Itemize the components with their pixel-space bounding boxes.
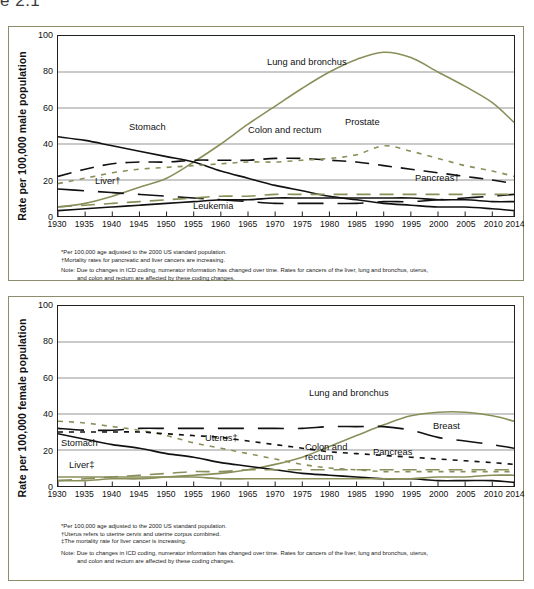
female-note-line-2: and colon and rectum are affected by the… [61,558,509,566]
x-tick-label: 1975 [293,489,312,499]
x-tick-label: 1940 [102,489,121,499]
female-footnote-3: ‡The mortality rate for liver cancer is … [61,538,513,546]
annotation-stomach: Stomach [61,438,98,448]
female-plot [57,305,515,487]
series-line-leukemia [58,198,514,211]
x-tick-label: 1995 [402,489,421,499]
male-footnote-1: *Per 100,000 age adjusted to the 2000 US… [61,249,513,257]
annotation-stomach: Stomach [129,122,166,132]
x-tick-label: 1985 [347,489,366,499]
x-tick-label: 2005 [456,219,475,229]
male-chart-area: Rate per 100,000 male population 0204060… [9,27,523,245]
x-tick-label: 1930 [47,489,66,499]
annotation-liver: Liver† [95,176,120,186]
x-tick-label: 1945 [129,489,148,499]
annotation-uterus: Uterus‡ [205,433,238,443]
y-tick-label: 20 [43,446,53,455]
female-footnote-2: †Uterus refers to uterine cervix and ute… [61,531,513,539]
y-tick-label: 60 [43,103,53,112]
x-tick-label: 1980 [320,219,339,229]
male-note: Note: Due to changes in ICD coding, nume… [61,267,509,282]
x-tick-label: 2010 [484,219,503,229]
x-tick-label: 1960 [211,489,230,499]
y-tick-label: 100 [38,31,53,40]
x-tick-label: 2014 [505,219,524,229]
x-tick-label: 1980 [320,489,339,499]
x-tick-label: 1950 [156,489,175,499]
x-tick-label: 1955 [184,489,203,499]
female-line-chart-svg [58,306,514,486]
annotation-lung-and-bronchus: Lung and bronchus [309,388,389,398]
annotation-breast: Breast [433,421,460,431]
female-y-tick-labels: 020406080100 [33,305,55,487]
y-tick-label: 60 [43,373,53,382]
male-note-line-2: and colon and rectum are affected by the… [61,275,509,283]
x-tick-label: 1935 [75,219,94,229]
x-tick-label: 1955 [184,219,203,229]
x-tick-label: 1945 [129,219,148,229]
annotation-colon-and-rectum-line2: rectum [305,452,333,462]
male-y-tick-labels: 020406080100 [33,35,55,217]
female-y-axis-title: Rate per 100,000 female population [11,297,33,519]
y-tick-label: 100 [38,301,53,310]
male-footnotes: *Per 100,000 age adjusted to the 2000 US… [61,249,513,264]
y-tick-label: 20 [43,176,53,185]
female-plot-wrapper: 020406080100 193019351940194519501955196… [33,305,515,519]
x-tick-label: 2014 [505,489,524,499]
annotation-pancreas: Pancreas [373,447,412,457]
x-tick-label: 1995 [402,219,421,229]
male-chart-panel: Rate per 100,000 male population 0204060… [8,26,524,281]
x-tick-label: 1970 [266,219,285,229]
x-tick-label: 2000 [429,219,448,229]
series-line-stomach [58,434,514,483]
series-line-colon-and-rectum [58,432,514,465]
y-tick-label: 40 [43,410,53,419]
x-tick-label: 1940 [102,219,121,229]
x-tick-label: 1930 [47,219,66,229]
x-tick-label: 1965 [238,489,257,499]
annotation-colon-and-rectum: Colon and rectum [248,125,321,135]
annotation-prostate: Prostate [345,117,380,127]
annotation-liver: Liver‡ [69,460,94,470]
y-tick-label: 80 [43,67,53,76]
x-tick-label: 1965 [238,219,257,229]
female-chart-area: Rate per 100,000 female population 02040… [9,297,523,519]
x-tick-label: 2000 [429,489,448,499]
figure-page: e 2.1 Rate per 100,000 male population 0… [0,0,534,589]
clipped-header-text: e 2.1 [0,0,40,11]
x-tick-label: 1970 [266,489,285,499]
annotation-colon-and-rectum-line1: Colon and [305,442,347,452]
x-tick-label: 1960 [211,219,230,229]
x-tick-label: 1990 [375,489,394,499]
female-x-tick-labels: 1930193519401945195019551960196519701975… [57,489,515,501]
y-tick-label: 40 [43,140,53,149]
female-footnote-1: *Per 100,000 age adjusted to the 2000 US… [61,523,513,531]
male-footnote-2: †Mortality rates for pancreatic and live… [61,257,513,265]
x-tick-label: 1985 [347,219,366,229]
female-footnotes: *Per 100,000 age adjusted to the 2000 US… [61,523,513,546]
annotation-pancreas: Pancreas† [415,173,459,183]
male-plot-wrapper: 020406080100 193019351940194519501955196… [33,35,515,245]
annotation-lung-and-bronchus: Lung and bronchus [267,57,347,67]
x-tick-label: 1935 [75,489,94,499]
female-note: Note: Due to changes in ICD coding, nume… [61,550,509,565]
male-y-axis-title: Rate per 100,000 male population [11,27,33,245]
x-tick-label: 1975 [293,219,312,229]
male-x-tick-labels: 1930193519401945195019551960196519701975… [57,219,515,231]
annotation-leukemia: Leukemia [193,201,233,211]
x-tick-label: 1990 [375,219,394,229]
y-tick-label: 80 [43,337,53,346]
x-tick-label: 2010 [484,489,503,499]
x-tick-label: 2005 [456,489,475,499]
female-note-line-1: Note: Due to changes in ICD coding, nume… [61,550,428,556]
female-chart-panel: Rate per 100,000 female population 02040… [8,296,524,581]
male-note-line-1: Note: Due to changes in ICD coding, nume… [61,267,428,273]
x-tick-label: 1950 [156,219,175,229]
